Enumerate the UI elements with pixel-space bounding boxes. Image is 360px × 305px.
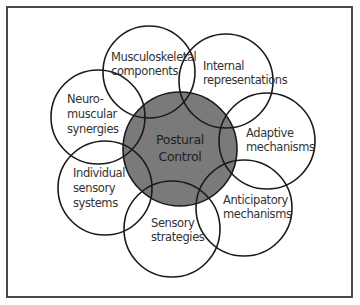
label-adaptive: Adaptive mechanisms	[246, 126, 315, 154]
label-line: Internal	[203, 59, 287, 73]
label-neuromuscular: Neuro- muscular synergies	[67, 92, 119, 137]
label-anticipatory: Anticipatory mechanisms	[223, 193, 292, 221]
label-line: components	[111, 64, 196, 78]
label-line: synergies	[67, 122, 119, 137]
label-line: Adaptive	[246, 126, 315, 140]
label-line: strategies	[151, 230, 204, 244]
label-musculoskeletal: Musculoskeletal components	[111, 50, 196, 78]
label-internal: Internal representations	[203, 59, 287, 87]
center-label-line1: Postural	[146, 131, 214, 148]
label-line: mechanisms	[246, 140, 315, 154]
label-line: systems	[73, 196, 125, 211]
label-line: Neuro-	[67, 92, 119, 107]
label-line: muscular	[67, 107, 119, 122]
label-line: Anticipatory	[223, 193, 292, 207]
label-line: Sensory	[151, 216, 204, 230]
center-label-line2: Control	[146, 148, 214, 165]
label-line: Musculoskeletal	[111, 50, 196, 64]
label-line: representations	[203, 73, 287, 87]
label-line: sensory	[73, 181, 125, 196]
center-label: Postural Control	[146, 131, 214, 165]
label-individual: Individual sensory systems	[73, 166, 125, 211]
label-sensory-strategies: Sensory strategies	[151, 216, 204, 244]
label-line: Individual	[73, 166, 125, 181]
label-line: mechanisms	[223, 207, 292, 221]
